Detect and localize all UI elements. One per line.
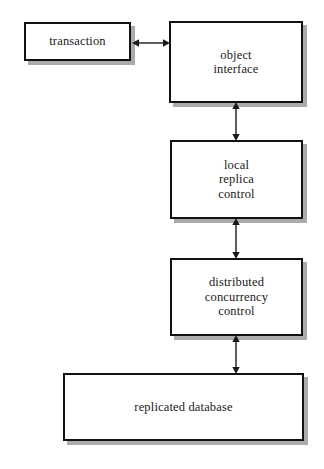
edge-object-interface-local-replica-control-arrow <box>226 101 246 142</box>
node-transaction-label: transaction <box>45 34 110 49</box>
node-distributed-concurrency-control: distributed concurrency control <box>170 258 303 336</box>
double-headed-arrow-vertical-icon <box>226 334 246 375</box>
edge-transaction-object-interface-arrow <box>130 33 172 53</box>
node-replicated-database-label: replicated database <box>130 400 236 415</box>
edge-local-replica-control-distributed-concurrency-control-arrow <box>226 217 246 260</box>
node-object-interface: object interface <box>169 21 303 103</box>
node-local-replica-control: local replica control <box>170 140 303 219</box>
node-transaction: transaction <box>24 22 131 61</box>
double-headed-arrow-vertical-icon <box>226 101 246 142</box>
node-distributed-concurrency-control-label: distributed concurrency control <box>201 275 272 319</box>
architecture-diagram: transaction object interface local repli… <box>0 0 324 469</box>
node-object-interface-label: object interface <box>209 48 262 77</box>
node-replicated-database: replicated database <box>63 373 304 441</box>
edge-distributed-concurrency-control-replicated-database-arrow <box>226 334 246 375</box>
double-headed-arrow-vertical-icon <box>226 217 246 260</box>
double-headed-arrow-horizontal-icon <box>130 33 172 53</box>
node-local-replica-control-label: local replica control <box>214 158 258 202</box>
